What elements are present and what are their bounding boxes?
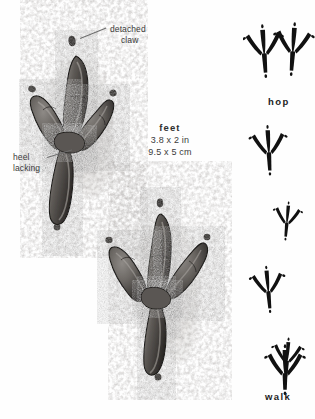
walk-track-3 [247, 264, 289, 315]
print-lower-center [105, 199, 210, 381]
heel-label-line2: lacking [13, 163, 40, 173]
track-plate: detachedclaw heellacking feet 3.8 x 2 in… [0, 0, 315, 419]
hop-label: hop [268, 96, 290, 107]
heel-lacking-label: heellacking [13, 152, 40, 173]
hop-track-right [270, 21, 315, 78]
claw-mark-right-2 [204, 234, 211, 240]
feet-title: feet [120, 122, 220, 133]
walk-track-final [255, 340, 315, 396]
detailed-prints-illustration [0, 0, 250, 400]
feet-size-imperial: 3.8 x 2 in [120, 135, 220, 147]
print-upper-left [27, 35, 117, 230]
walk-track-2 [270, 200, 304, 242]
walk-track-1 [247, 124, 290, 177]
claw-mark-front-2 [157, 199, 163, 208]
claw-mark-left-2 [105, 237, 112, 243]
measurement-block: feet 3.8 x 2 in 9.5 x 5 cm [120, 122, 220, 158]
gait-pattern-illustration [243, 18, 315, 390]
feet-size-metric: 9.5 x 5 cm [120, 147, 220, 159]
heel-label-line1: heel [13, 152, 29, 162]
walk-label: walk [265, 391, 291, 402]
claw-mark-front [68, 35, 77, 47]
claw-mark-left [27, 85, 36, 94]
detached-claw-label-line1: detached [110, 24, 146, 34]
detached-claw-label-line2: claw [110, 35, 146, 46]
detached-claw-label: detachedclaw [110, 24, 146, 45]
gait-hop-tracks [243, 21, 315, 80]
